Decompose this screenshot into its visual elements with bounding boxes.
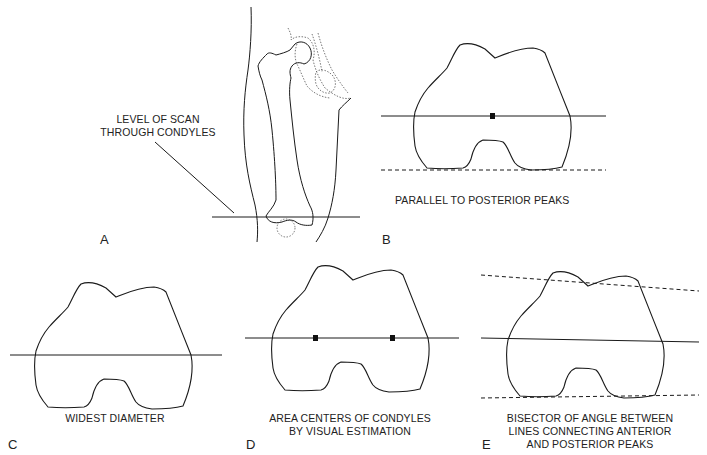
thigh-left-outline [244, 7, 258, 242]
caption-c: WIDEST DIAMETER [55, 412, 175, 425]
posterior-peaks-dashed-line [481, 395, 699, 398]
panel-e-drawing [481, 272, 699, 398]
panel-letter-a: A [100, 232, 109, 247]
thigh-right-outline [316, 98, 351, 242]
caption-e-line-1: BISECTOR OF ANGLE BETWEEN [500, 412, 680, 425]
caption-a: LEVEL OF SCAN THROUGH CONDYLES [98, 113, 218, 139]
panel-c-drawing [10, 283, 222, 409]
lateral-center-marker [390, 335, 395, 341]
caption-a-line-2: THROUGH CONDYLES [98, 126, 218, 139]
center-marker [490, 113, 495, 119]
caption-d-line-2: BY VISUAL ESTIMATION [265, 425, 435, 438]
pelvis-dotted-outline [288, 28, 351, 99]
panel-letter-d: D [246, 437, 255, 452]
anterior-peaks-dashed-line [481, 275, 699, 291]
caption-a-line-1: LEVEL OF SCAN [98, 113, 218, 126]
panel-d-drawing [245, 266, 459, 392]
patella-dotted [277, 219, 295, 237]
panel-b-drawing [381, 44, 606, 170]
leader-line [155, 142, 234, 213]
panel-letter-c: C [8, 437, 17, 452]
bisector-line [481, 338, 699, 342]
femur-outline [258, 42, 313, 225]
acetabulum-dotted [295, 44, 330, 98]
ischium-dotted [312, 33, 348, 93]
panel-letter-e: E [482, 437, 491, 452]
panel-letter-b: B [382, 232, 391, 247]
caption-d-line-1: AREA CENTERS OF CONDYLES [265, 412, 435, 425]
caption-b-line-1: PARALLEL TO POSTERIOR PEAKS [395, 194, 585, 207]
caption-e-line-2: LINES CONNECTING ANTERIOR [500, 425, 680, 438]
obturator-dotted [315, 70, 335, 93]
caption-e-line-3: AND POSTERIOR PEAKS [500, 438, 680, 451]
caption-c-line-1: WIDEST DIAMETER [55, 412, 175, 425]
caption-b: PARALLEL TO POSTERIOR PEAKS [395, 194, 585, 207]
caption-d: AREA CENTERS OF CONDYLES BY VISUAL ESTIM… [265, 412, 435, 438]
medial-center-marker [313, 335, 318, 341]
figure-drawing [0, 0, 707, 455]
caption-e: BISECTOR OF ANGLE BETWEEN LINES CONNECTI… [500, 412, 680, 451]
